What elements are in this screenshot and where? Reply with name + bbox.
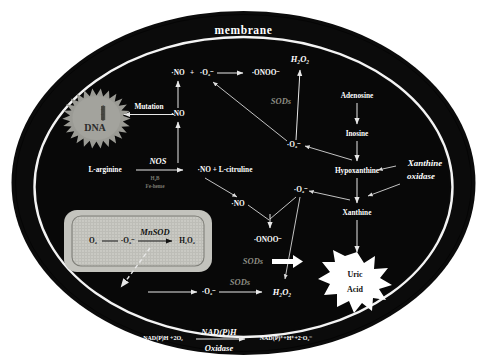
species-o2minus-top: ·O₂⁻ bbox=[200, 68, 214, 77]
species-no-mutation: ·NO bbox=[171, 109, 185, 118]
diagram-canvas: membrane nucleolus DNA Mutation ·NO + ·O… bbox=[0, 0, 487, 363]
mitochondrion: O₂ ·O₂⁻ MnSOD H₂O₂ bbox=[64, 210, 212, 272]
species-h2o2-top: H₂O₂ bbox=[290, 54, 310, 64]
plus-sign-top: + bbox=[190, 68, 194, 77]
enzyme-nos-cofactor-1: H₄B bbox=[150, 175, 160, 181]
species-onoo-top: ·ONOO⁻ bbox=[252, 68, 281, 77]
nucleus-body bbox=[73, 96, 121, 140]
enzyme-nos-cofactor-2: Fe-heme bbox=[145, 183, 165, 189]
enzyme-sods-bottom: SODs bbox=[230, 277, 251, 287]
species-o2minus-mid-right: ·O₂⁻ bbox=[294, 185, 308, 194]
purine-step-adenosine: Adenosine bbox=[341, 91, 374, 100]
enzyme-sods-top: SODs bbox=[271, 96, 292, 106]
species-o2minus-bottom: ·O₂⁻ bbox=[202, 287, 216, 296]
uric-acid-line1: Uric bbox=[347, 270, 363, 279]
purine-step-hypoxanthine: Hypoxanthine bbox=[335, 166, 380, 175]
dna-label: DNA bbox=[84, 122, 106, 133]
enzyme-xanthine-oxidase-line1: Xanthine bbox=[407, 158, 443, 168]
nadph-equation-right: NAD(P)⁺+H⁺+2·O₂⁻ bbox=[260, 335, 313, 342]
mito-substrate-o2: O₂ bbox=[89, 236, 97, 245]
cell-pathway-svg: membrane nucleolus DNA Mutation ·NO + ·O… bbox=[0, 0, 487, 363]
mito-intermediate-o2minus: ·O₂⁻ bbox=[121, 236, 135, 245]
species-h2o2-bottom: H₂O₂ bbox=[272, 287, 292, 297]
mito-product-h2o2: H₂O₂ bbox=[179, 236, 195, 245]
enzyme-sods-mid: SODs bbox=[243, 256, 264, 266]
enzyme-xanthine-oxidase-line2: oxidase bbox=[407, 171, 435, 181]
purine-step-inosine: Inosine bbox=[346, 129, 369, 138]
uric-acid-line2: Acid bbox=[347, 285, 364, 294]
enzyme-nos: NOS bbox=[148, 156, 166, 166]
enzyme-nadph-oxidase-line2: Oxidase bbox=[205, 343, 234, 353]
species-no-mid: ·NO bbox=[231, 199, 245, 208]
membrane-label: membrane bbox=[215, 24, 273, 36]
mutation-label: Mutation bbox=[134, 102, 163, 111]
species-l-arginine: L-arginine bbox=[88, 165, 122, 174]
enzyme-nadph-oxidase-line1: NAD(P)H bbox=[200, 327, 237, 337]
species-o2minus-upper-right: ·O₂⁻ bbox=[287, 140, 301, 149]
species-onoo-mid: ·ONOO⁻ bbox=[254, 235, 283, 244]
enzyme-mnsod: MnSOD bbox=[139, 227, 169, 237]
species-no-citrulline: ·NO + L-citruline bbox=[198, 165, 254, 174]
cytoplasm bbox=[38, 40, 450, 335]
purine-step-xanthine: Xanthine bbox=[343, 208, 373, 217]
nucleolus-label: nucleolus bbox=[100, 105, 105, 121]
species-no-top: ·NO bbox=[171, 68, 185, 77]
